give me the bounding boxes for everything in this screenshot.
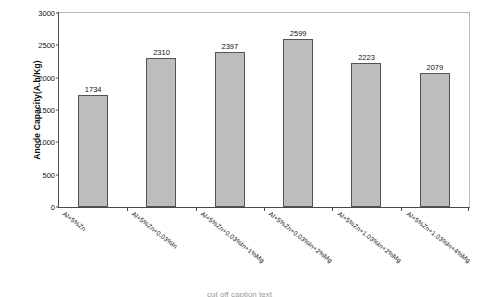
- x-tick-label: Al+5%Zn+0.03%In: [131, 210, 179, 250]
- bar-value-label: 2599: [290, 29, 307, 38]
- bar[interactable]: 2599: [283, 39, 313, 207]
- bar[interactable]: 2223: [351, 63, 381, 207]
- bar[interactable]: 1734: [78, 95, 108, 207]
- bar-group: 2397: [196, 13, 264, 207]
- bars-layer: 173423102397259922232079: [59, 13, 469, 207]
- bar-group: 2599: [264, 13, 332, 207]
- bar-group: 1734: [59, 13, 127, 207]
- bar-group: 2223: [332, 13, 400, 207]
- bar-value-label: 2079: [426, 63, 443, 72]
- x-tick-label: Al+5%Zn: [62, 210, 88, 232]
- bar-value-label: 1734: [85, 85, 102, 94]
- bar-value-label: 2223: [358, 53, 375, 62]
- bar[interactable]: 2397: [215, 52, 245, 207]
- bar-group: 2079: [401, 13, 469, 207]
- x-tick-label: Al+5%Zn+1.03%In+2%Mg: [337, 210, 403, 264]
- bar[interactable]: 2310: [146, 58, 176, 207]
- plot-area: 300025002000150010005000 173423102397259…: [58, 12, 470, 208]
- bar-group: 2310: [127, 13, 195, 207]
- bar[interactable]: 2079: [420, 73, 450, 207]
- bar-value-label: 2310: [153, 48, 170, 57]
- x-tick-label: Al+5%Zn+1.03%In+4%Mg: [405, 210, 471, 264]
- figure-caption: cut off caption text: [0, 290, 479, 297]
- x-tick-label: Al+5%Zn+0.03%In+1%Mg: [199, 210, 265, 264]
- x-tick-label: Al+5%Zn+0.03%In+2%Mg: [268, 210, 334, 264]
- x-axis-labels: Al+5%ZnAl+5%Zn+0.03%InAl+5%Zn+0.03%In+1%…: [58, 210, 470, 286]
- bar-value-label: 2397: [221, 42, 238, 51]
